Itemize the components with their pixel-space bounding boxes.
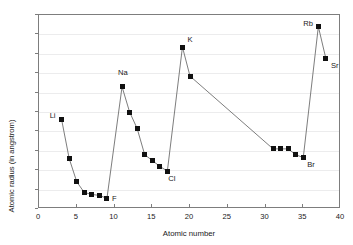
data-point-marker bbox=[150, 158, 155, 163]
data-point-label: Cl bbox=[168, 175, 175, 183]
plot-area: LiFNaClKBrRbSr bbox=[38, 14, 340, 208]
y-axis-title-text: Atomic radius (in angstrom) bbox=[7, 111, 16, 221]
x-axis-tick-label: 25 bbox=[212, 213, 242, 221]
x-axis-tick-mark bbox=[151, 204, 152, 208]
data-point-marker bbox=[157, 164, 162, 169]
data-point-marker bbox=[67, 156, 72, 161]
data-points: LiFNaClKBrRbSr bbox=[39, 15, 339, 207]
data-point-marker bbox=[82, 190, 87, 195]
data-point-marker bbox=[59, 117, 64, 122]
data-point-marker bbox=[323, 56, 328, 61]
atomic-radius-chart: Atomic radius (in angstrom) 0.60.811.21.… bbox=[0, 0, 353, 245]
x-axis-tick-label: 5 bbox=[61, 213, 91, 221]
x-axis-tick-mark bbox=[189, 204, 190, 208]
x-axis-tick-mark bbox=[302, 204, 303, 208]
data-point-marker bbox=[286, 146, 291, 151]
x-axis-tick-label: 40 bbox=[325, 213, 353, 221]
data-point-label: K bbox=[187, 36, 192, 44]
data-point-marker bbox=[142, 152, 147, 157]
data-point-marker bbox=[135, 126, 140, 131]
x-axis-tick-mark bbox=[227, 204, 228, 208]
data-point-marker bbox=[188, 74, 193, 79]
x-axis-tick-label: 30 bbox=[250, 213, 280, 221]
data-point-marker bbox=[120, 84, 125, 89]
data-point-marker bbox=[127, 110, 132, 115]
x-axis-tick-label: 0 bbox=[23, 213, 53, 221]
data-point-marker bbox=[293, 152, 298, 157]
data-point-marker bbox=[316, 24, 321, 29]
data-point-marker bbox=[165, 169, 170, 174]
x-axis-tick-label: 35 bbox=[287, 213, 317, 221]
x-axis-tick-mark bbox=[114, 204, 115, 208]
x-axis-tick-label: 20 bbox=[174, 213, 204, 221]
data-point-label: Sr bbox=[331, 62, 339, 70]
data-point-marker bbox=[301, 155, 306, 160]
data-point-label: Rb bbox=[303, 20, 313, 28]
data-point-marker bbox=[180, 45, 185, 50]
y-axis-title: Atomic radius (in angstrom) bbox=[7, 1, 16, 111]
data-point-marker bbox=[271, 146, 276, 151]
x-axis-title: Atomic number bbox=[38, 229, 340, 238]
data-point-marker bbox=[97, 193, 102, 198]
data-point-label: Li bbox=[50, 112, 56, 120]
data-point-marker bbox=[74, 179, 79, 184]
x-axis-tick-label: 15 bbox=[136, 213, 166, 221]
x-axis-tick-label: 10 bbox=[99, 213, 129, 221]
x-axis-tick-mark bbox=[265, 204, 266, 208]
data-point-label: Na bbox=[118, 69, 128, 77]
data-point-marker bbox=[89, 192, 94, 197]
data-point-label: Br bbox=[307, 161, 315, 169]
data-point-marker bbox=[278, 146, 283, 151]
x-axis-tick-mark bbox=[76, 204, 77, 208]
data-point-marker bbox=[104, 196, 109, 201]
data-point-label: F bbox=[112, 195, 117, 203]
y-axis-tick-mark bbox=[35, 208, 38, 209]
